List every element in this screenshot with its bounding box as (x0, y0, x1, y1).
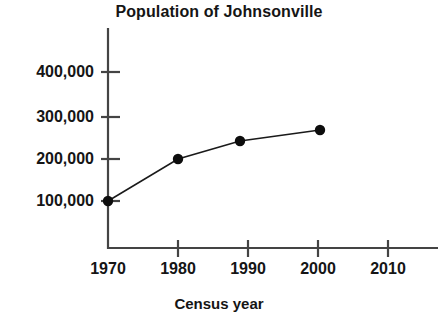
x-axis-label-1990: 1990 (213, 260, 283, 278)
x-axis-label-2000: 2000 (283, 260, 353, 278)
x-axis-label-1980: 1980 (143, 260, 213, 278)
x-axis-tick-labels: 1970 1980 1990 2000 2010 (0, 0, 438, 328)
x-axis-label-2010: 2010 (353, 260, 423, 278)
x-axis-label-1970: 1970 (73, 260, 143, 278)
chart-figure: Population of Johnsonville 400,000 300,0… (0, 0, 438, 328)
x-axis-title: Census year (0, 295, 438, 312)
